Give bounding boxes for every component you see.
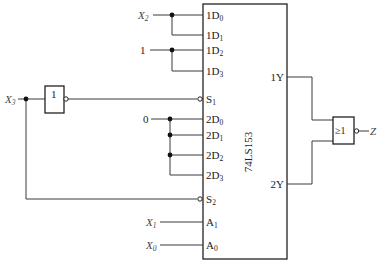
junction-dot: [168, 153, 173, 158]
not-gate-symbol: 1: [51, 88, 57, 100]
nor-gate-bubble: [354, 129, 358, 133]
chip-name: 74LS153: [242, 131, 254, 172]
junction-dot: [170, 48, 175, 53]
output-z-label: Z: [370, 125, 377, 137]
junction-dot: [170, 13, 175, 18]
input-x3-label: X3: [4, 93, 16, 107]
wire-outputs: [287, 77, 333, 184]
s1-inversion-bubble: [198, 97, 202, 101]
not-gate-bubble: [64, 97, 68, 101]
input-x2-label: X2: [137, 9, 149, 23]
wire-one-group: [150, 48, 203, 71]
junction-dot: [168, 117, 173, 122]
input-x0-label: X0: [145, 239, 157, 253]
nor-gate-symbol: ≥1: [335, 125, 346, 136]
const-one-label: 1: [140, 44, 146, 56]
pin-2y: 2Y: [271, 178, 285, 190]
wire-x2-group: [153, 13, 203, 35]
circuit-diagram: 74LS153 X2 1 X3 1 0 X1: [0, 0, 379, 273]
wire-zero-group: [151, 117, 203, 175]
junction-dot: [168, 133, 173, 138]
const-zero-label: 0: [143, 113, 149, 125]
s2-inversion-bubble: [198, 197, 202, 201]
junction-dot: [24, 97, 29, 102]
input-x1-label: X1: [145, 216, 156, 230]
pin-1y: 1Y: [271, 71, 285, 83]
